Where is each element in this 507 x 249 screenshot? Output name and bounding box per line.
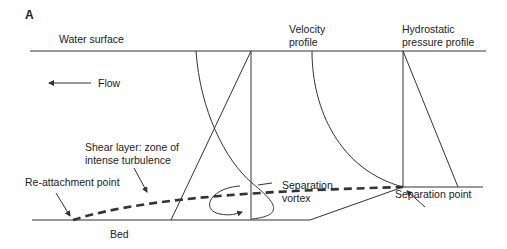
shear-layer-dashed (73, 187, 403, 220)
shear-layer-label-line2: intense turbulence (85, 154, 171, 167)
separation-vortex-label-line2: vortex (282, 192, 311, 205)
shear-layer-leader (134, 168, 147, 192)
bed-label: Bed (110, 228, 129, 241)
flow-label: Flow (98, 77, 120, 90)
velocity-profile-curve-middle (196, 51, 274, 219)
hydrostatic-label-line1: Hydrostatic (402, 23, 455, 36)
step-ramp-line (310, 187, 403, 220)
water-surface-label: Water surface (59, 33, 124, 46)
shear-layer-label-line1: Shear layer: zone of (85, 141, 179, 154)
reattachment-leader (56, 193, 70, 216)
velocity-profile-curve-right (312, 51, 403, 187)
flow-separation-diagram: A Water surface Flow Velocity profile Hy… (0, 0, 507, 249)
vortex-leader (258, 183, 272, 185)
hydrostatic-label-line2: pressure profile (402, 36, 474, 49)
middle-pressure-diagonal (171, 51, 251, 220)
panel-label: A (25, 9, 34, 22)
hydrostatic-diagonal (403, 51, 458, 187)
separation-vortex-arrow (210, 186, 242, 215)
velocity-profile-label-line2: profile (289, 36, 318, 49)
separation-vortex-label-line1: Separation (282, 179, 333, 192)
velocity-profile-label-line1: Velocity (289, 23, 325, 36)
reattachment-point-label: Re-attachment point (25, 176, 120, 189)
separation-point-label: Separation point (395, 188, 471, 201)
